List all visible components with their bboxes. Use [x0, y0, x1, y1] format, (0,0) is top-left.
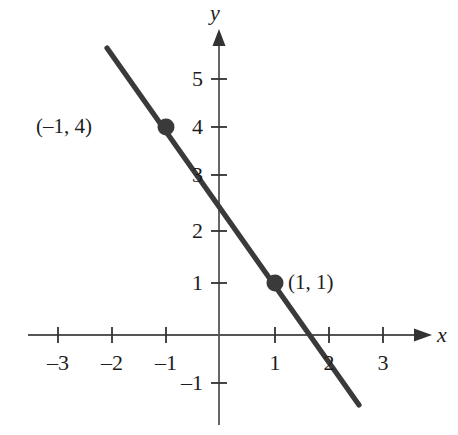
- x-axis-arrowhead: [414, 329, 432, 342]
- y-axis-arrowhead: [213, 29, 226, 46]
- x-tick-label-2: 2: [324, 352, 335, 374]
- x-tick-label--1: –1: [155, 352, 177, 374]
- plotted-line: [107, 48, 359, 405]
- y-tick-label-5: 5: [192, 68, 203, 90]
- y-axis-label: y: [210, 2, 220, 24]
- coordinate-plane-figure: –3 –2 –1 1 2 3 5 4 3 2 1 –1 y x (–1, 4) …: [0, 0, 458, 435]
- y-tick-label-4: 4: [192, 116, 203, 138]
- y-tick-label-2: 2: [192, 220, 203, 242]
- y-tick-label-1: 1: [192, 272, 203, 294]
- x-tick-label-3: 3: [378, 352, 389, 374]
- y-tick-label--1: –1: [181, 372, 203, 394]
- x-tick-label--3: –3: [47, 352, 69, 374]
- point-annotation-1-1: (1, 1): [288, 272, 334, 293]
- x-tick-label-1: 1: [270, 352, 281, 374]
- y-tick-label-3: 3: [192, 164, 203, 186]
- point-annotation--1-4: (–1, 4): [36, 116, 92, 137]
- data-point-marker: [267, 275, 284, 292]
- x-tick-label--2: –2: [101, 352, 123, 374]
- data-point-marker: [158, 119, 175, 136]
- x-axis-label: x: [437, 324, 447, 346]
